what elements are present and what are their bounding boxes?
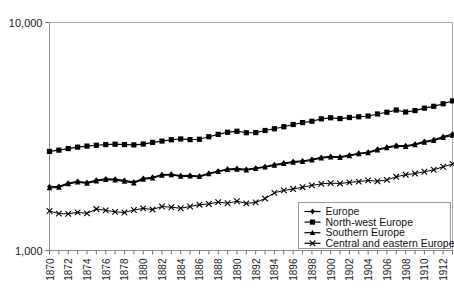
marker-square (291, 122, 296, 127)
x-tick-label: 1878 (119, 258, 130, 281)
marker-square (253, 130, 258, 135)
marker-square (394, 107, 399, 112)
x-tick-label: 1890 (232, 258, 243, 281)
x-tick-label: 1900 (326, 258, 337, 281)
x-tick-label: 1894 (269, 258, 280, 281)
series-southern-europe (47, 132, 454, 190)
marker-square (75, 145, 80, 150)
marker-square (113, 142, 118, 147)
marker-square (244, 130, 249, 135)
y-tick-label: 10,000 (9, 17, 43, 29)
marker-square (206, 134, 211, 139)
x-tick-label: 1906 (382, 258, 393, 281)
marker-square (187, 137, 192, 142)
marker-cross (440, 164, 446, 170)
series-path (50, 101, 453, 152)
legend-item-central-and-eastern-europe[interactable]: Central and eastern Europe (305, 237, 454, 249)
marker-square (328, 115, 333, 120)
marker-square (431, 104, 436, 109)
line-chart: 10,0001,00018701872187418761878188018821… (0, 0, 454, 297)
x-tick-label: 1896 (288, 258, 299, 281)
marker-square (141, 141, 146, 146)
series-europe (47, 131, 454, 189)
marker-square (84, 144, 89, 149)
x-tick-label: 1882 (157, 258, 168, 281)
marker-square (178, 136, 183, 141)
y-tick-label: 1,000 (15, 245, 43, 257)
marker-square (450, 98, 454, 103)
marker-square (262, 128, 267, 133)
marker-square (412, 108, 417, 113)
x-tick-label: 1902 (344, 258, 355, 281)
marker-square (56, 148, 61, 153)
marker-square (216, 132, 221, 137)
marker-square (47, 149, 52, 154)
x-tick-label: 1892 (251, 258, 262, 281)
x-tick-label: 1880 (138, 258, 149, 281)
x-tick-label: 1912 (438, 258, 449, 281)
x-tick-label: 1886 (194, 258, 205, 281)
series-path (50, 135, 453, 188)
marker-square (225, 130, 230, 135)
marker-square (122, 142, 127, 147)
x-tick-label: 1884 (176, 258, 187, 281)
marker-square (403, 109, 408, 114)
x-tick-label: 1888 (213, 258, 224, 281)
marker-square (422, 106, 427, 111)
x-tick-label: 1872 (63, 258, 74, 281)
marker-square (337, 116, 342, 121)
marker-square (94, 143, 99, 148)
marker-cross (450, 161, 454, 167)
marker-square (347, 115, 352, 120)
x-tick-label: 1898 (307, 258, 318, 281)
x-tick-label: 1904 (363, 258, 374, 281)
x-tick-label: 1910 (419, 258, 430, 281)
chart-container: 10,0001,00018701872187418761878188018821… (0, 0, 454, 297)
marker-square (234, 129, 239, 134)
marker-square (197, 137, 202, 142)
marker-square (66, 146, 71, 151)
marker-square (375, 111, 380, 116)
marker-square (150, 140, 155, 145)
marker-square (310, 220, 315, 225)
marker-square (103, 142, 108, 147)
x-tick-label: 1874 (82, 258, 93, 281)
marker-square (356, 114, 361, 119)
marker-cross (262, 196, 268, 202)
marker-square (281, 124, 286, 129)
marker-square (272, 126, 277, 131)
x-tick-label: 1870 (45, 258, 56, 281)
legend-label: Central and eastern Europe (326, 237, 454, 249)
marker-square (309, 119, 314, 124)
x-tick-label: 1908 (401, 258, 412, 281)
legend: EuropeNorth-west EuropeSouthern EuropeCe… (299, 203, 454, 249)
marker-square (169, 137, 174, 142)
marker-square (366, 113, 371, 118)
marker-square (441, 101, 446, 106)
marker-square (384, 110, 389, 115)
x-tick-label: 1876 (101, 258, 112, 281)
marker-square (131, 142, 136, 147)
marker-square (300, 120, 305, 125)
marker-square (159, 138, 164, 143)
marker-square (319, 116, 324, 121)
